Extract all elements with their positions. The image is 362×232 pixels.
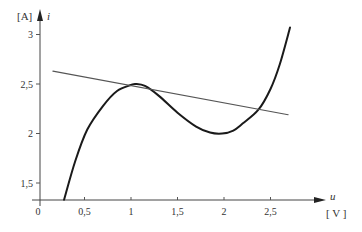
y-ticks: 1,522,53: [21, 29, 41, 189]
y-tick-label: 1,5: [21, 178, 34, 189]
y-tick-label: 2,5: [21, 79, 34, 90]
load-line: [53, 71, 288, 115]
characteristic-curve: [64, 28, 290, 200]
x-tick-label: 2: [222, 206, 227, 217]
x-axis-variable: u: [330, 190, 336, 202]
y-tick-label: 3: [28, 29, 33, 40]
x-tick-label: 0,5: [78, 206, 91, 217]
x-tick-label: 2,5: [264, 206, 277, 217]
y-axis-unit: [A]: [17, 10, 32, 22]
x-tick-label: 0: [36, 206, 41, 217]
y-axis-arrow-icon: [37, 9, 43, 21]
x-axis-arrow-icon: [314, 197, 326, 203]
series: [53, 28, 290, 200]
x-tick-label: 1: [129, 206, 134, 217]
iv-chart: 00,511,522,5 1,522,53 u [ V ] [A] i: [0, 0, 362, 232]
x-tick-label: 1,5: [171, 206, 184, 217]
axes: [32, 9, 326, 206]
y-axis-variable: i: [47, 10, 50, 22]
y-tick-label: 2: [28, 128, 33, 139]
x-axis-unit: [ V ]: [326, 207, 346, 219]
